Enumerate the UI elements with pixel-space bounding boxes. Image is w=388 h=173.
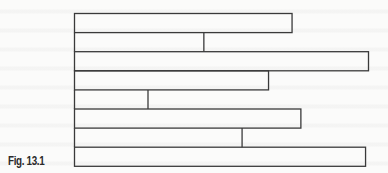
bar-row-1 bbox=[75, 14, 293, 33]
bar-diagram bbox=[0, 0, 388, 173]
bar-1 bbox=[75, 14, 293, 33]
bar-8 bbox=[75, 147, 366, 166]
bar-row-6 bbox=[75, 109, 301, 128]
bar-row-8 bbox=[75, 147, 366, 166]
bar-row-2 bbox=[75, 33, 204, 52]
bar-row-3 bbox=[75, 52, 369, 71]
bar-row-4 bbox=[75, 71, 269, 90]
bar-6 bbox=[75, 109, 301, 128]
bar-3 bbox=[75, 52, 369, 71]
bar-row-7 bbox=[75, 128, 243, 147]
figure-caption: Fig. 13.1 bbox=[8, 154, 44, 168]
bar-4 bbox=[75, 71, 269, 90]
bar-row-5 bbox=[75, 90, 149, 109]
